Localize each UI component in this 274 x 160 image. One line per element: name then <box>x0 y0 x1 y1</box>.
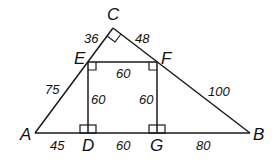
point-label-F: F <box>161 49 173 68</box>
length-CE: 36 <box>84 31 99 46</box>
point-label-A: A <box>19 125 31 144</box>
right-angle-mark-E <box>88 62 96 70</box>
right-angle-mark-C <box>107 34 121 42</box>
point-label-D: D <box>82 136 94 155</box>
segment-CB <box>113 28 250 133</box>
point-label-G: G <box>150 136 163 155</box>
length-FB: 100 <box>208 84 230 99</box>
point-label-C: C <box>107 5 120 24</box>
segment-AC <box>35 28 113 133</box>
length-GB: 80 <box>196 138 211 153</box>
length-DG: 60 <box>116 138 131 153</box>
point-label-B: B <box>253 125 264 144</box>
length-EF: 60 <box>116 66 131 81</box>
geometry-diagram: C E F A B D G 36 48 60 75 100 60 60 45 6… <box>0 0 274 160</box>
length-FG: 60 <box>139 92 154 107</box>
point-label-E: E <box>74 49 86 68</box>
length-ED: 60 <box>91 92 106 107</box>
right-angle-mark-F <box>149 62 157 70</box>
length-CF: 48 <box>135 31 150 46</box>
length-AE: 75 <box>45 82 60 97</box>
length-AD: 45 <box>50 138 65 153</box>
